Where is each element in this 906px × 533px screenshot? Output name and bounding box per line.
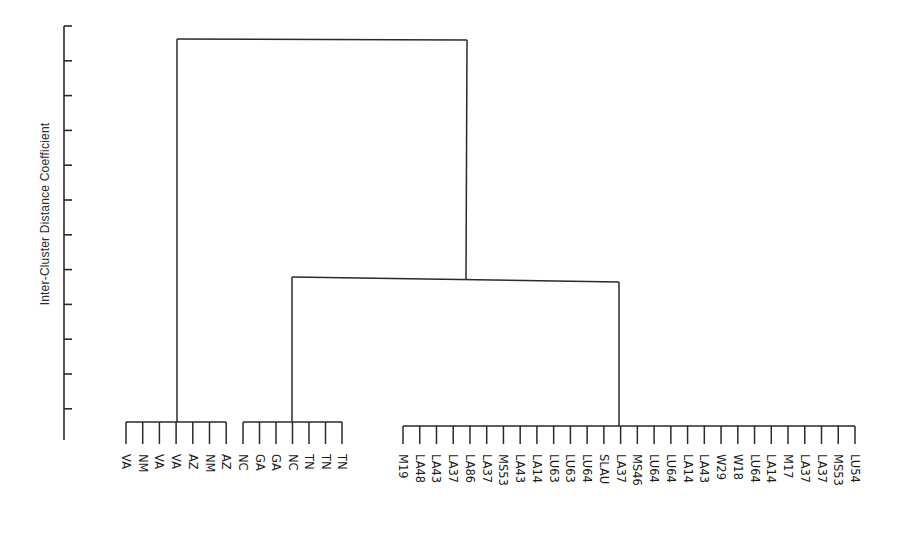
- leaf-label: GA: [253, 454, 267, 471]
- leaf-label: SLAU: [597, 454, 611, 484]
- leaf-label: LA43: [697, 454, 711, 483]
- leaf-label: LU63: [563, 454, 577, 483]
- leaf-label: LA37: [446, 454, 460, 483]
- leaf-label: AZ: [219, 454, 233, 470]
- leaf-label: TN: [319, 453, 333, 470]
- leaf-label: W29: [714, 454, 728, 480]
- leaf-label: MS53: [831, 454, 845, 486]
- leaf-label: VA: [169, 454, 183, 469]
- leaf-label: LA43: [429, 454, 443, 483]
- root-stem: [466, 40, 467, 279]
- leaf-label: NC: [236, 454, 250, 471]
- leaf-label: AZ: [186, 454, 200, 470]
- leaf-label: LU63: [547, 454, 561, 483]
- leaf-labels: VANMVAVAAZNMAZNCGAGANCTNTNTNM19LA48LA43L…: [119, 453, 862, 486]
- leaf-label: W18: [731, 454, 745, 480]
- leaf-label: LA37: [815, 454, 829, 483]
- leaf-label: NC: [286, 454, 300, 471]
- leaf-label: TN: [302, 453, 316, 470]
- leaf-label: MS46: [630, 454, 644, 486]
- leaf-label: LU54: [848, 454, 862, 483]
- leaf-label: TN: [335, 453, 349, 470]
- leaf-label: MS53: [496, 454, 510, 486]
- leaf-label: LA86: [463, 454, 477, 483]
- merge-bar: [292, 277, 619, 282]
- leaf-label: GA: [269, 454, 283, 471]
- y-axis-label: Inter-Cluster Distance Coefficient: [38, 123, 52, 306]
- leaf-label: LU64: [580, 454, 594, 483]
- leaf-label: LA14: [764, 454, 778, 483]
- leaf-label: LA37: [480, 454, 494, 483]
- dendrogram-chart: VANMVAVAAZNMAZNCGAGANCTNTNTNM19LA48LA43L…: [0, 0, 906, 533]
- leaf-label: VA: [119, 454, 133, 469]
- leaf-label: M19: [396, 454, 410, 479]
- leaf-label: LA37: [614, 454, 628, 483]
- leaf-label: LU64: [647, 454, 661, 483]
- leaf-label: NM: [203, 454, 217, 473]
- leaf-label: M17: [781, 454, 795, 479]
- leaf-label: LU64: [664, 454, 678, 483]
- leaf-label: LA14: [530, 454, 544, 483]
- leaf-label: LA37: [798, 454, 812, 483]
- leaf-label: LA48: [413, 454, 427, 483]
- root-bar: [177, 39, 467, 40]
- leaf-label: NM: [136, 454, 150, 473]
- leaf-label: LA14: [681, 454, 695, 483]
- y-axis: [64, 26, 72, 440]
- dendrogram-branches: [126, 39, 855, 444]
- leaf-label: LU64: [748, 454, 762, 483]
- leaf-label: VA: [152, 454, 166, 469]
- leaf-label: LA43: [513, 454, 527, 483]
